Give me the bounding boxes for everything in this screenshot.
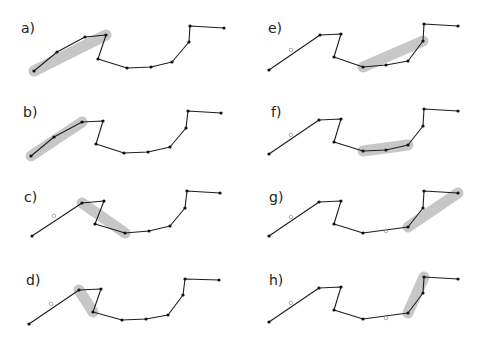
highlight-segment [31, 122, 82, 156]
vertex-dot [219, 111, 222, 114]
vertex-dot [456, 191, 459, 194]
panel-label: e) [268, 20, 282, 36]
highlight-segment [34, 35, 106, 71]
vertex-dot [93, 222, 96, 225]
vertex-dot [317, 286, 320, 289]
panel-b [29, 109, 222, 157]
polyline-path [269, 277, 458, 322]
vertex-dot [32, 69, 35, 72]
vertex-dot [101, 119, 104, 122]
highlight-segment [82, 203, 125, 233]
vertex-dot [332, 140, 335, 143]
vertex-dot [168, 145, 171, 148]
vertex-dot [186, 109, 189, 112]
vertex-dot [406, 59, 409, 62]
vertex-dot [456, 277, 459, 280]
polyline-path [31, 111, 221, 156]
vertex-dot [222, 26, 225, 29]
vertex-dot [267, 320, 270, 323]
panel-label: b) [23, 104, 37, 120]
vertex-dot [384, 148, 387, 151]
polyline-path [34, 26, 224, 71]
vertex-dot [361, 231, 364, 234]
vertex-dot [27, 322, 30, 325]
vertex-dot [122, 151, 125, 154]
highlight-segment [363, 41, 423, 67]
vertex-dot [80, 120, 83, 123]
vertex-dot [421, 39, 424, 42]
vertex-dot [332, 222, 335, 225]
vertex-dot [317, 118, 320, 121]
vertex-dot [102, 199, 105, 202]
removed-vertex-ring [384, 316, 388, 320]
vertex-dot [332, 308, 335, 311]
vertex-dot [181, 293, 184, 296]
vertex-dot [421, 291, 424, 294]
vertex-dot [422, 22, 425, 25]
vertex-dot [332, 55, 335, 58]
removed-vertex-ring [49, 302, 53, 306]
vertex-dot [421, 206, 424, 209]
vertex-dot [422, 107, 425, 110]
vertex-dot [361, 65, 364, 68]
vertex-dot [52, 135, 55, 138]
panel-a [32, 24, 225, 72]
panel-label: g) [269, 189, 283, 205]
vertex-dot [170, 60, 173, 63]
removed-vertex-ring [289, 215, 293, 219]
vertex-dot [339, 32, 342, 35]
panel-c [30, 189, 221, 237]
panel-g [267, 189, 459, 237]
highlight-segment [79, 290, 93, 312]
panel-label: f) [271, 104, 281, 120]
vertex-dot [80, 201, 83, 204]
vertex-dot [422, 189, 425, 192]
vertex-dot [94, 142, 97, 145]
vertex-dot [267, 234, 270, 237]
panel-label: h) [269, 272, 283, 288]
vertex-dot [217, 278, 220, 281]
vertex-dot [422, 275, 425, 278]
vertex-dot [144, 317, 147, 320]
removed-vertex-ring [289, 301, 293, 305]
vertex-dot [184, 126, 187, 129]
removed-vertex-ring [52, 214, 56, 218]
panel-label: a) [21, 20, 35, 36]
vertex-dot [183, 206, 186, 209]
vertex-dot [188, 24, 191, 27]
vertex-dot [146, 150, 149, 153]
vertex-dot [187, 40, 190, 43]
vertex-dot [406, 311, 409, 314]
vertex-dot [421, 124, 424, 127]
panel-h [267, 275, 459, 323]
vertex-dot [218, 191, 221, 194]
vertex-dot [83, 35, 86, 38]
removed-vertex-ring [289, 133, 293, 137]
vertex-dot [384, 63, 387, 66]
vertex-dot [96, 57, 99, 60]
vertex-dot [55, 50, 58, 53]
vertex-dot [104, 33, 107, 36]
vertex-dot [361, 317, 364, 320]
vertex-dot [99, 287, 102, 290]
vertex-dot [361, 149, 364, 152]
vertex-dot [123, 231, 126, 234]
panel-e [267, 22, 459, 71]
panel-label: c) [24, 189, 37, 205]
vertex-dot [267, 68, 270, 71]
vertex-dot [339, 199, 342, 202]
vertex-dot [168, 224, 171, 227]
polyline-path [29, 279, 219, 324]
vertex-dot [125, 66, 128, 69]
vertex-dot [456, 109, 459, 112]
vertex-dot [183, 277, 186, 280]
vertex-dot [91, 310, 94, 313]
vertex-dot [30, 234, 33, 237]
vertex-dot [456, 24, 459, 27]
removed-vertex-ring [289, 48, 293, 52]
vertex-dot [185, 189, 188, 192]
diagram-canvas [0, 0, 484, 338]
highlight-segment [408, 193, 458, 227]
vertex-dot [317, 200, 320, 203]
vertex-dot [339, 285, 342, 288]
